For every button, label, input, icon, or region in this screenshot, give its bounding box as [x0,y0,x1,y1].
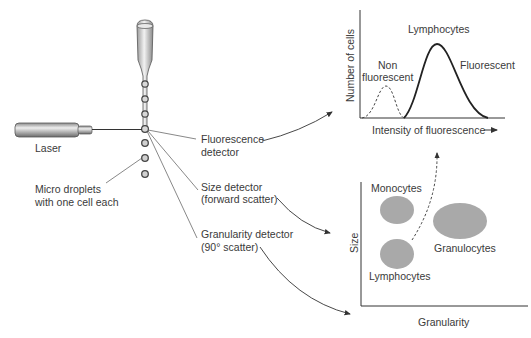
histogram-xlabel: Intensity of fluorescence [372,124,485,137]
detector-lines [106,130,198,238]
scatter-ylabel: Size [348,233,360,253]
fluorescence-detector-label-line1: Fluorescence [201,133,264,146]
non-fluorescent-label-line1: Non [378,59,397,72]
fluorescent-label: Fluorescent [460,59,515,72]
granulocytes-label: Granulocytes [434,242,496,255]
histogram-ylabel: Number of cells [344,29,356,102]
scatter-xlabel: Granularity [418,316,469,329]
non-fluorescent-label-line2: fluorescent [362,71,413,84]
droplets-label-line2: with one cell each [35,196,118,209]
diagram-canvas [0,0,531,338]
lymphocytes-cluster-label: Lymphocytes [369,270,430,283]
non-fluorescent-curve [362,86,404,118]
monocytes-label: Monocytes [371,182,422,195]
granularity-detector-label-line2: (90° scatter) [201,241,258,254]
size-detector-label-line2: (forward scatter) [201,193,277,206]
granularity-detector-label-line1: Granularity detector [201,228,293,241]
fluorescence-detector-label-line2: detector [201,146,239,159]
fluorescent-curve [404,44,488,118]
laser-label: Laser [35,142,61,155]
size-detector-label-line1: Size detector [201,181,262,194]
lymphocytes-peak-label: Lymphocytes [408,23,469,36]
free-droplets [142,140,149,178]
lymphocytes-cluster [380,239,414,269]
monocytes-cluster [380,196,414,224]
droplets-label-line1: Micro droplets [35,183,101,196]
laser-device [15,123,142,137]
granulocytes-cluster [433,203,487,239]
